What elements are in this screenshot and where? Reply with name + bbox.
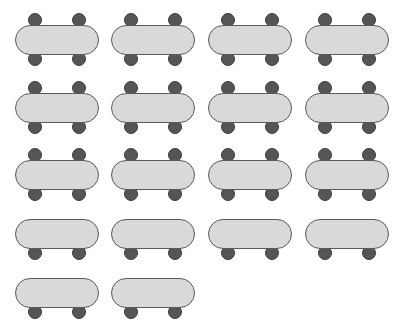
table-rounded-icon	[305, 25, 389, 55]
table-group	[15, 25, 99, 67]
table-rounded-icon	[111, 278, 195, 308]
table-group	[305, 93, 389, 135]
seating-diagram	[0, 0, 400, 334]
table-rounded-icon	[15, 25, 99, 55]
table-group	[111, 25, 195, 67]
table-rounded-icon	[111, 219, 195, 249]
table-rounded-icon	[208, 160, 292, 190]
table-group	[208, 219, 292, 261]
table-rounded-icon	[111, 93, 195, 123]
table-group	[111, 160, 195, 202]
table-group	[208, 93, 292, 135]
table-group	[305, 219, 389, 261]
table-rounded-icon	[208, 93, 292, 123]
table-group	[111, 219, 195, 261]
table-rounded-icon	[15, 278, 99, 308]
table-rounded-icon	[15, 93, 99, 123]
table-rounded-icon	[111, 25, 195, 55]
table-group	[15, 278, 99, 320]
table-group	[111, 278, 195, 320]
table-rounded-icon	[15, 160, 99, 190]
table-group	[15, 93, 99, 135]
table-rounded-icon	[305, 160, 389, 190]
table-rounded-icon	[15, 219, 99, 249]
table-group	[208, 160, 292, 202]
table-rounded-icon	[111, 160, 195, 190]
table-rounded-icon	[208, 25, 292, 55]
table-group	[15, 219, 99, 261]
table-group	[305, 160, 389, 202]
table-group	[305, 25, 389, 67]
table-rounded-icon	[208, 219, 292, 249]
table-rounded-icon	[305, 219, 389, 249]
table-group	[111, 93, 195, 135]
table-group	[208, 25, 292, 67]
table-rounded-icon	[305, 93, 389, 123]
table-group	[15, 160, 99, 202]
